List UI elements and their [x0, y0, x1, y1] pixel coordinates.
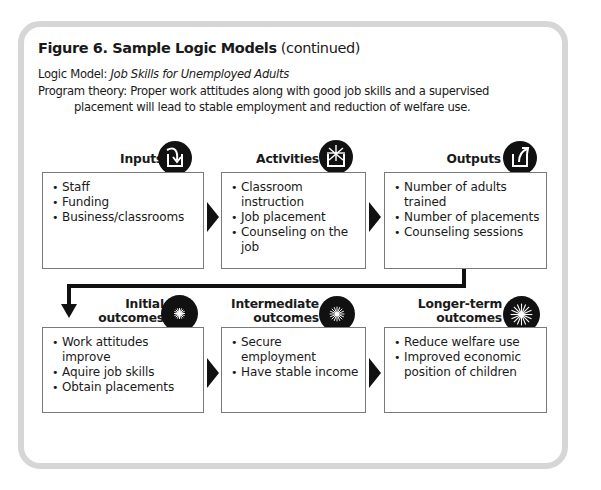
longer-term-outcomes-box: Reduce welfare use Improved economic pos… [384, 327, 547, 413]
intermediate-outcomes-label-line1: Intermediate [231, 297, 319, 311]
list-item: Secure employment [228, 335, 359, 365]
list-item: Reduce welfare use [391, 335, 540, 350]
outputs-label-text: Outputs [447, 152, 501, 166]
connector-horizontal [67, 284, 466, 288]
initial-outcomes-box: Work attitudes improve Aquire job skills… [42, 327, 204, 413]
list-item: Number of placements [391, 210, 540, 225]
input-arrow-icon [158, 141, 192, 175]
flow-arrow-icon [207, 202, 219, 232]
list-item: Staff [49, 180, 197, 195]
logic-model-label: Logic Model: [38, 67, 111, 81]
outputs-label: Outputs [447, 152, 501, 166]
figure-title: Figure 6. Sample Logic Models (continued… [38, 40, 360, 56]
inputs-label-text: Inputs [120, 152, 163, 166]
intermediate-outcomes-list: Secure employment Have stable income [228, 335, 359, 380]
longer-term-outcomes-label-line1: Longer-term [418, 297, 502, 311]
list-item: Counseling sessions [391, 225, 540, 240]
list-item: Improved economic position of children [391, 350, 540, 380]
program-theory-line2: placement will lead to stable employment… [74, 100, 470, 114]
list-item: Obtain placements [49, 380, 197, 395]
activity-burst-icon [319, 140, 353, 174]
list-item: Counseling on the job [228, 225, 359, 255]
initial-outcomes-label-line2: outcomes [98, 311, 164, 325]
intermediate-outcomes-label: Intermediate outcomes [231, 297, 319, 325]
flow-arrow-icon [369, 358, 381, 388]
arrow-down-icon [61, 304, 77, 318]
logic-model-name: Job Skills for Unemployed Adults [111, 67, 289, 81]
list-item: Number of adults trained [391, 180, 540, 210]
activities-box: Classroom instruction Job placement Coun… [221, 172, 366, 269]
list-item: Aquire job skills [49, 365, 197, 380]
activities-label: Activities [256, 152, 319, 166]
flow-arrow-icon [369, 202, 381, 232]
logic-model-line: Logic Model: Job Skills for Unemployed A… [38, 67, 289, 81]
activities-label-text: Activities [256, 152, 319, 166]
initial-outcomes-label: Initial outcomes [98, 297, 164, 325]
list-item: Business/classrooms [49, 210, 197, 225]
program-theory-line1: Program theory: Proper work attitudes al… [38, 84, 489, 98]
list-item: Job placement [228, 210, 359, 225]
connector-vertical-left [67, 284, 71, 306]
longer-term-outcomes-label: Longer-term outcomes [418, 297, 502, 325]
figure-title-bold: Figure 6. Sample Logic Models [38, 40, 277, 56]
outputs-list: Number of adults trained Number of place… [391, 180, 540, 240]
outputs-box: Number of adults trained Number of place… [384, 172, 547, 269]
list-item: Work attitudes improve [49, 335, 197, 365]
figure-title-suffix: (continued) [277, 40, 360, 56]
flow-arrow-icon [207, 358, 219, 388]
inputs-box: Staff Funding Business/classrooms [42, 172, 204, 269]
initial-outcomes-list: Work attitudes improve Aquire job skills… [49, 335, 197, 395]
output-arrow-icon [503, 141, 537, 175]
activities-list: Classroom instruction Job placement Coun… [228, 180, 359, 255]
list-item: Funding [49, 195, 197, 210]
longer-term-outcomes-list: Reduce welfare use Improved economic pos… [391, 335, 540, 380]
list-item: Classroom instruction [228, 180, 359, 210]
inputs-list: Staff Funding Business/classrooms [49, 180, 197, 225]
initial-outcomes-label-line1: Initial [98, 297, 164, 311]
list-item: Have stable income [228, 365, 359, 380]
inputs-label: Inputs [120, 152, 163, 166]
intermediate-outcomes-box: Secure employment Have stable income [221, 327, 366, 413]
intermediate-outcomes-label-line2: outcomes [231, 311, 319, 325]
longer-term-outcomes-label-line2: outcomes [418, 311, 502, 325]
